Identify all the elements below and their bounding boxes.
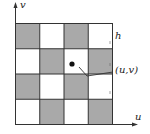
grid-cell-gray — [40, 49, 64, 74]
grid-cell-gray — [40, 99, 64, 124]
grid-cell-gray — [16, 74, 40, 99]
grid-cell-white — [16, 49, 40, 74]
grid-cell-white — [16, 99, 40, 124]
cell-size-label: h — [115, 30, 121, 41]
grid-cell-white — [88, 74, 112, 99]
v-axis-label: v — [20, 0, 26, 10]
point-label: (u,v) — [115, 64, 138, 75]
grid-cell-white — [64, 99, 88, 124]
grid-cell-white — [40, 74, 64, 99]
grid-cell-white — [40, 24, 64, 49]
grid-cell-gray — [88, 99, 112, 124]
grid-cell-gray — [88, 49, 112, 74]
grid-cell-white — [64, 49, 88, 74]
grid-cell-gray — [64, 74, 88, 99]
grid-cell-white — [88, 24, 112, 49]
grid-cell-gray — [16, 24, 40, 49]
point-marker — [69, 61, 74, 66]
u-axis-label: u — [135, 111, 141, 122]
checkerboard-diagram: v u h (u,v) — [0, 0, 150, 134]
v-axis-arrow-icon — [14, 2, 18, 8]
u-axis-arrow-icon — [132, 123, 138, 127]
grid-cell-gray — [64, 24, 88, 49]
